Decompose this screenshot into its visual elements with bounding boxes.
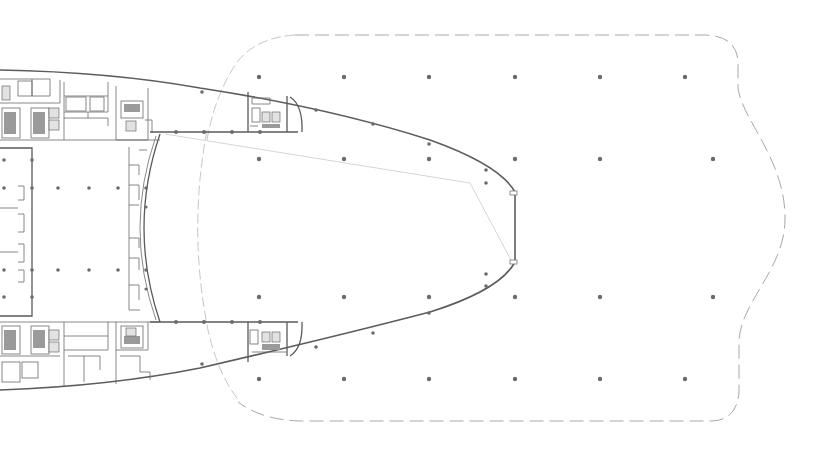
dashed-inner-arc bbox=[198, 130, 240, 402]
nose-cap-bottom bbox=[510, 260, 517, 264]
lower-slab-corner bbox=[290, 322, 302, 356]
left-bay-partitions bbox=[0, 186, 24, 282]
upper-right-core bbox=[248, 92, 287, 132]
atrium-curtain-wall-inner bbox=[140, 136, 156, 320]
nose-cap-top bbox=[510, 191, 517, 195]
interior-guide-line bbox=[165, 134, 512, 262]
lower-left-rooms bbox=[0, 322, 160, 386]
dashed-boundary-left-arc-top bbox=[207, 35, 295, 140]
facade-upper bbox=[0, 70, 515, 192]
left-atrium-wall bbox=[0, 148, 32, 316]
upper-slab-corner bbox=[290, 97, 302, 132]
atrium-curtain-wall bbox=[144, 134, 160, 322]
structural-columns bbox=[2, 75, 715, 381]
floor-plan-drawing bbox=[0, 0, 833, 452]
dashed-site-boundary bbox=[238, 35, 785, 421]
facade-lower bbox=[0, 262, 515, 390]
upper-left-rooms bbox=[0, 79, 160, 140]
